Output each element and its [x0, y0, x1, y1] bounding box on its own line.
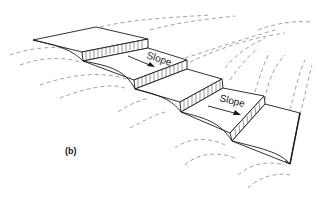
figure-caption: (b) [65, 146, 77, 156]
terrace-diagram: Slope Slope [0, 0, 317, 197]
